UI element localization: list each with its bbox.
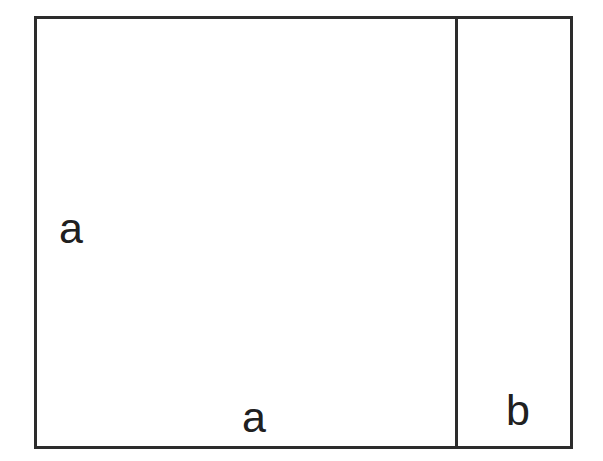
figure-canvas: a a b — [0, 0, 603, 461]
vertical-divider-line — [455, 16, 458, 449]
outer-rectangle — [34, 16, 573, 449]
label-left-side-a: a — [59, 207, 83, 250]
label-right-strip-b: b — [506, 389, 530, 432]
label-bottom-side-a: a — [242, 396, 266, 439]
